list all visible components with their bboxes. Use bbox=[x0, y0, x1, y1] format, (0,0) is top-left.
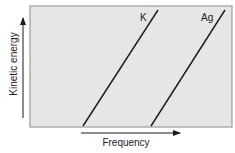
x-axis-label: Frequency bbox=[102, 137, 149, 148]
y-axis-label: Kinetic energy bbox=[8, 32, 19, 95]
series-label-k: K bbox=[140, 12, 147, 23]
plot-area bbox=[30, 6, 232, 127]
series-label-ag: Ag bbox=[201, 12, 213, 23]
chart: K Ag Kinetic energy Frequency bbox=[0, 0, 235, 153]
